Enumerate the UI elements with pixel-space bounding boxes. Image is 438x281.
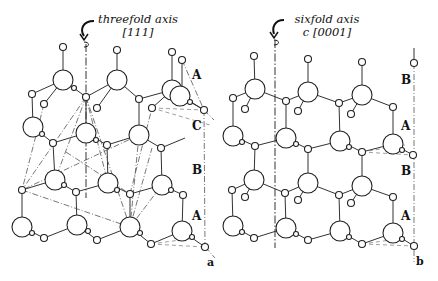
panel-b-title: sixfold axis c [0001] [282,13,372,39]
panel-b-atoms [223,53,418,250]
panel-a-layer-label-4: A [192,210,201,222]
panel-a-layer-label-1: A [192,69,201,81]
panel-b-layer-label-2: A [401,120,410,132]
panel-b-layer-label-1: B [401,74,411,86]
panel-a-title-line2: [111] [88,26,188,39]
panel-b-layer-label-4: A [401,210,410,222]
panel-a-layer-label-3: B [192,164,202,176]
panel-a-layer-label-2: C [192,120,202,132]
crystal-structure-figure: threefold axis [111] sixfold axis c [000… [0,0,438,281]
structure-drawing [0,0,438,281]
panel-a-atoms [12,44,209,251]
panel-b-title-line2: c [0001] [282,26,372,39]
panel-b-layer-label-3: B [401,165,411,177]
panel-a-label: a [207,257,214,269]
panel-a-title: threefold axis [111] [88,13,188,39]
panel-b-label: b [416,256,424,268]
